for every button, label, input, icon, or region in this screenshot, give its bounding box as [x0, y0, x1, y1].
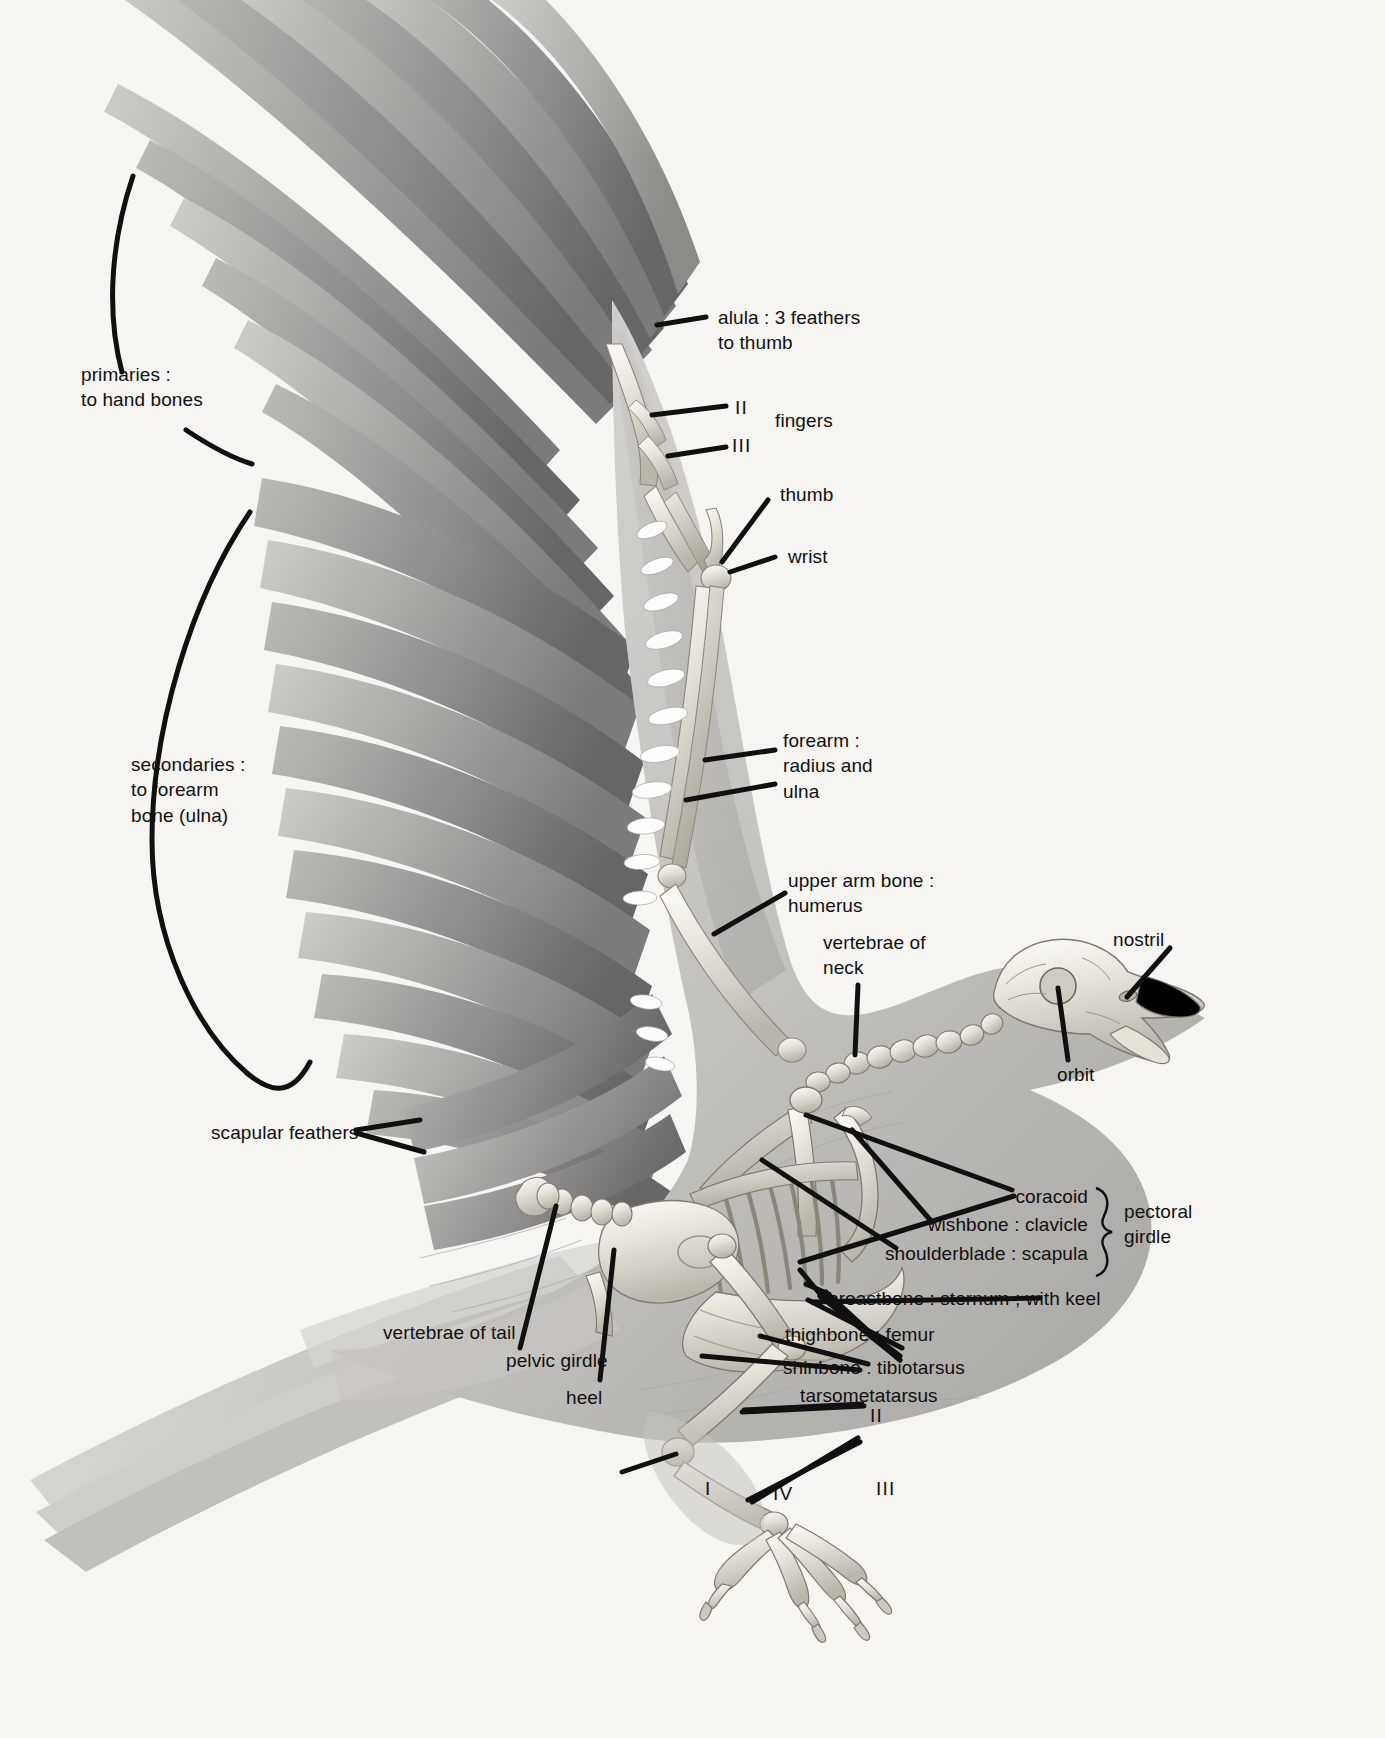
label-clavicle: wishbone : clavicle [866, 1212, 1088, 1237]
label-tibiotarsus: shinbone : tibiotarsus [783, 1355, 965, 1380]
label-tarsometatarsus: tarsometatarsus [800, 1383, 938, 1408]
diagram-page: primaries : to hand bones secondaries : … [0, 0, 1385, 1738]
label-thumb: thumb [780, 482, 833, 507]
label-scapula: shoulderblade : scapula [866, 1241, 1088, 1266]
label-nostril: nostril [1113, 927, 1164, 952]
label-sternum: breastbone : sternum ; with keel [828, 1286, 1101, 1311]
label-heel: heel [566, 1385, 602, 1410]
label-forearm: forearm : radius and ulna [783, 728, 873, 804]
label-coracoid: coracoid [866, 1184, 1088, 1209]
label-finger-three: III [732, 435, 751, 457]
label-toe-two: II [870, 1405, 883, 1427]
label-pectoral-girdle: pectoral girdle [1124, 1199, 1192, 1250]
label-femur: thighbone : femur [785, 1322, 935, 1347]
label-alula: alula : 3 feathers to thumb [718, 305, 860, 356]
label-orbit: orbit [1057, 1062, 1094, 1087]
label-tail-vertebrae: vertebrae of tail [383, 1320, 516, 1345]
label-humerus: upper arm bone : humerus [788, 868, 934, 919]
label-fingers: fingers [775, 408, 833, 433]
label-scapular-feathers: scapular feathers [211, 1120, 358, 1145]
label-primaries: primaries : to hand bones [81, 362, 203, 413]
bird-anatomy-illustration [0, 0, 1385, 1738]
label-secondaries: secondaries : to forearm bone (ulna) [131, 752, 245, 828]
label-toe-four: IV [773, 1483, 793, 1505]
label-pelvic-girdle: pelvic girdle [506, 1348, 608, 1373]
label-toe-one: I [705, 1478, 711, 1500]
label-wrist: wrist [788, 544, 828, 569]
label-neck-vertebrae: vertebrae of neck [823, 930, 926, 981]
label-toe-three: III [876, 1478, 895, 1500]
label-finger-two: II [735, 397, 748, 419]
